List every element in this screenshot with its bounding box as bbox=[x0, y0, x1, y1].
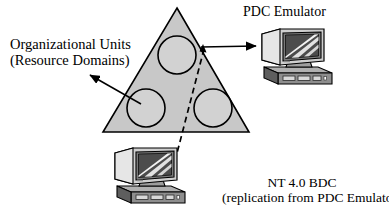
organizational-units-label-line2: (Resource Domains) bbox=[10, 52, 131, 68]
arrow-to-pdc-emulator bbox=[201, 46, 256, 47]
nt4-bdc-label-line1: NT 4.0 BDC bbox=[222, 175, 382, 190]
pdc-emulator-label: PDC Emulator bbox=[243, 4, 326, 20]
organizational-units-label-line1: Organizational Units bbox=[10, 36, 131, 52]
organizational-unit-bottom-left bbox=[127, 89, 165, 127]
nt4-bdc-label: NT 4.0 BDC (replication from PDC Emulato… bbox=[222, 175, 382, 205]
pdc-emulator-computer bbox=[262, 29, 332, 84]
organizational-unit-bottom-right bbox=[194, 89, 232, 127]
organizational-unit-top bbox=[158, 36, 196, 74]
diagram-canvas: Organizational Units (Resource Domains) … bbox=[0, 0, 389, 222]
nt4-bdc-label-line2: (replication from PDC Emulator) bbox=[222, 190, 382, 205]
organizational-units-label: Organizational Units (Resource Domains) bbox=[10, 36, 131, 68]
nt4-bdc-computer bbox=[115, 148, 185, 203]
